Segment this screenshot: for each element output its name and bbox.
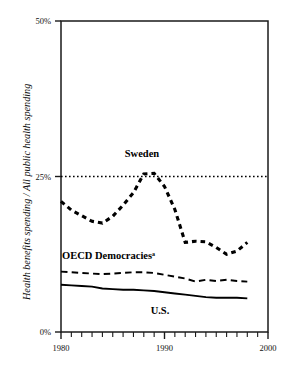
annotation-us: U.S. bbox=[151, 305, 170, 316]
x-tick-label-2000: 2000 bbox=[260, 343, 277, 353]
annotation-oecd-democracies: OECD Democraciesa bbox=[62, 250, 155, 261]
annotation-sweden: Sweden bbox=[125, 148, 160, 159]
y-axis-title: Health benefits spending / All public he… bbox=[21, 84, 32, 301]
chart-figure: Health benefits spending / All public he… bbox=[0, 0, 291, 369]
chart-background bbox=[0, 0, 291, 369]
chart-svg: Health benefits spending / All public he… bbox=[0, 0, 291, 369]
y-tick-label-0: 0% bbox=[40, 327, 51, 337]
y-tick-label-25: 25% bbox=[35, 172, 51, 182]
y-tick-label-50: 50% bbox=[35, 16, 51, 26]
x-tick-label-1990: 1990 bbox=[156, 343, 173, 353]
x-tick-label-1980: 1980 bbox=[53, 343, 70, 353]
